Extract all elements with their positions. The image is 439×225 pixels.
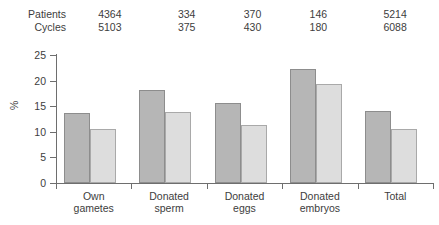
- y-axis-line: [56, 54, 57, 184]
- y-axis-tick: [50, 106, 56, 107]
- x-axis-label-total: Total: [358, 190, 433, 202]
- patients-value-donated-eggs: 370: [220, 8, 286, 21]
- x-axis-tick: [56, 183, 57, 189]
- cycles-value-own-gametes: 5103: [66, 21, 154, 34]
- x-axis-label-line: Own: [56, 190, 131, 202]
- bar-series-2-own-gametes: [90, 129, 116, 183]
- x-axis-label-line: Donated: [131, 190, 206, 202]
- x-axis-label-donated-sperm: Donatedsperm: [131, 190, 206, 214]
- x-axis-label-line: sperm: [131, 202, 206, 214]
- y-axis-tick-label: 15: [6, 101, 46, 111]
- x-axis-label-own-gametes: Owngametes: [56, 190, 131, 214]
- table-row-patients: Patients 4364 334 370 146 5214: [0, 8, 439, 21]
- cycles-value-total: 6088: [351, 21, 439, 34]
- bar-series-2-donated-eggs: [241, 125, 267, 183]
- x-axis-line: [56, 183, 433, 184]
- x-axis-label-donated-eggs: Donatedeggs: [207, 190, 282, 214]
- patients-value-donated-sperm: 334: [154, 8, 220, 21]
- row-label-cycles: Cycles: [0, 21, 66, 34]
- x-axis-label-line: Donated: [282, 190, 357, 202]
- bar-series-2-donated-sperm: [165, 112, 191, 183]
- patients-value-donated-embryos: 146: [285, 8, 351, 21]
- cycles-value-donated-eggs: 430: [220, 21, 286, 34]
- bar-series-2-total: [391, 129, 417, 183]
- patients-value-total: 5214: [351, 8, 439, 21]
- bar-series-1-donated-embryos: [290, 69, 316, 183]
- x-axis-label-line: Total: [358, 190, 433, 202]
- table-row-cycles: Cycles 5103 375 430 180 6088: [0, 21, 439, 34]
- x-axis-tick: [358, 183, 359, 189]
- y-axis-tick-label: 10: [6, 127, 46, 137]
- x-axis-tick: [131, 183, 132, 189]
- x-axis-label-line: eggs: [207, 202, 282, 214]
- y-axis-tick: [50, 157, 56, 158]
- bar-series-1-donated-eggs: [215, 103, 241, 183]
- y-axis-tick-label: 5: [6, 152, 46, 162]
- x-axis-label-line: Donated: [207, 190, 282, 202]
- x-axis-label-line: embryos: [282, 202, 357, 214]
- x-axis-label-line: gametes: [56, 202, 131, 214]
- bar-series-1-donated-sperm: [139, 90, 165, 183]
- y-axis-tick: [50, 55, 56, 56]
- y-axis-tick-label: 0: [6, 178, 46, 188]
- chart-container: Patients 4364 334 370 146 5214 Cycles 51…: [0, 0, 439, 225]
- summary-table: Patients 4364 334 370 146 5214 Cycles 51…: [0, 8, 439, 34]
- x-axis-label-donated-embryos: Donatedembryos: [282, 190, 357, 214]
- x-axis-tick: [282, 183, 283, 189]
- x-axis-tick: [207, 183, 208, 189]
- cycles-value-donated-sperm: 375: [154, 21, 220, 34]
- patients-value-own-gametes: 4364: [66, 8, 154, 21]
- bar-series-1-own-gametes: [64, 113, 90, 183]
- bar-series-2-donated-embryos: [316, 84, 342, 183]
- cycles-value-donated-embryos: 180: [285, 21, 351, 34]
- bar-series-1-total: [365, 111, 391, 183]
- y-axis-tick: [50, 81, 56, 82]
- row-label-patients: Patients: [0, 8, 66, 21]
- y-axis-tick-label: 25: [6, 50, 46, 60]
- y-axis-tick-label: 20: [6, 76, 46, 86]
- x-axis-tick: [433, 183, 434, 189]
- y-axis-tick: [50, 132, 56, 133]
